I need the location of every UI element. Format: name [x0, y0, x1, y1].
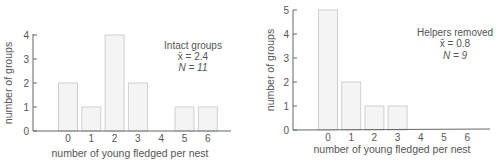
y-axis-label: number of groups — [264, 29, 276, 111]
figure: 01234 0123456 number of groups number of… — [0, 0, 499, 163]
x-tick-label: 3 — [395, 132, 401, 143]
x-axis-label: number of young fledged per nest — [51, 147, 208, 159]
y-tick-label: 4 — [23, 30, 29, 41]
x-tick-label: 3 — [135, 133, 141, 144]
x-ticks: 0123456 — [325, 132, 470, 143]
legend: Intact groups x̄ = 2.4 N = 11 — [164, 40, 222, 73]
y-tick-label: 1 — [283, 101, 289, 112]
x-tick-label: 0 — [65, 133, 71, 144]
bar-1 — [82, 107, 101, 131]
y-tick-label: 0 — [283, 125, 289, 136]
bar-3 — [388, 106, 407, 130]
x-axis-label: number of young fledged per nest — [313, 143, 470, 155]
legend-mean: x̄ = 2.4 — [178, 51, 209, 62]
bars — [319, 10, 408, 130]
legend-n: N = 11 — [179, 62, 208, 73]
legend-title: Helpers removed — [417, 27, 493, 38]
bar-0 — [59, 83, 78, 131]
y-ticks: 01234 — [23, 30, 37, 137]
y-ticks: 012345 — [283, 5, 297, 136]
bar-2 — [105, 35, 124, 131]
x-tick-label: 1 — [89, 133, 95, 144]
bar-1 — [342, 82, 361, 130]
chart-intact-groups: 01234 0123456 number of groups number of… — [2, 30, 231, 160]
x-tick-label: 5 — [441, 132, 447, 143]
y-tick-label: 5 — [283, 5, 289, 16]
y-tick-label: 0 — [23, 126, 29, 137]
x-tick-label: 6 — [464, 132, 470, 143]
y-tick-label: 4 — [283, 29, 289, 40]
x-tick-label: 1 — [348, 132, 354, 143]
y-tick-label: 3 — [23, 54, 29, 65]
legend-title: Intact groups — [164, 40, 222, 51]
y-tick-label: 2 — [23, 78, 29, 89]
x-tick-label: 2 — [112, 133, 118, 144]
y-axis-label: number of groups — [2, 42, 14, 124]
x-tick-label: 4 — [418, 132, 424, 143]
legend-mean: x̄ = 0.8 — [440, 38, 471, 49]
y-tick-label: 1 — [23, 102, 29, 113]
y-tick-label: 2 — [283, 77, 289, 88]
x-tick-label: 6 — [205, 133, 211, 144]
bar-2 — [365, 106, 384, 130]
x-tick-label: 2 — [372, 132, 378, 143]
x-ticks: 0123456 — [65, 133, 211, 144]
legend-n: N = 9 — [443, 50, 468, 61]
x-tick-label: 5 — [182, 133, 188, 144]
bar-5 — [175, 107, 194, 131]
chart-helpers-removed: 012345 0123456 number of groups number o… — [264, 5, 493, 156]
x-tick-label: 4 — [158, 133, 164, 144]
legend: Helpers removed x̄ = 0.8 N = 9 — [417, 27, 493, 61]
bar-3 — [128, 83, 147, 131]
y-tick-label: 3 — [283, 53, 289, 64]
x-tick-label: 0 — [325, 132, 331, 143]
bar-0 — [319, 10, 338, 130]
bar-6 — [198, 107, 217, 131]
